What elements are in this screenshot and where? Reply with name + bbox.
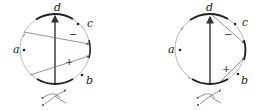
label-a: a: [13, 43, 20, 56]
chord-plus: [30, 56, 89, 75]
point-b: [81, 74, 84, 77]
sign-minus: −: [69, 29, 77, 40]
sign-plus: +: [222, 63, 230, 74]
crossing-icon: [197, 90, 221, 106]
point-b: [237, 73, 240, 76]
label-d: d: [206, 1, 213, 14]
label-a: a: [168, 43, 175, 56]
point-a: [23, 49, 26, 52]
thick-arc-right: [244, 40, 245, 60]
label-d: d: [54, 1, 61, 14]
label-c: c: [242, 16, 248, 29]
label-b: b: [86, 74, 93, 87]
right-diagram: d c a b − +: [168, 1, 248, 106]
diagram-canvas: d c a b − + d c a b − +: [0, 0, 261, 111]
point-c: [234, 23, 237, 26]
left-diagram: d c a b − +: [13, 1, 93, 106]
point-c: [77, 23, 80, 26]
sign-minus: −: [224, 29, 232, 40]
label-b: b: [241, 74, 248, 87]
sign-plus: +: [65, 56, 73, 67]
crossing-icon: [42, 90, 66, 106]
chord-minus: [24, 32, 89, 44]
thick-arc-right: [89, 40, 90, 58]
label-c: c: [87, 17, 93, 30]
point-a: [179, 49, 182, 52]
thick-arc-top: [190, 14, 228, 20]
